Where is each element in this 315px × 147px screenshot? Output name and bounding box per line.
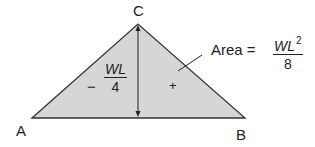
moment-diagram: [0, 0, 315, 147]
area-exponent: 2: [296, 35, 302, 46]
vertex-label-a: A: [16, 123, 26, 138]
area-numerator-text: WL: [274, 38, 295, 54]
area-fraction: WL2 8: [273, 36, 303, 71]
left-moment-fraction: WL 4: [104, 62, 127, 94]
vertex-label-b: B: [236, 127, 246, 142]
plus-sign: +: [169, 79, 177, 92]
left-moment-numerator: WL: [104, 62, 127, 78]
area-denominator: 8: [284, 55, 292, 71]
area-label-text: Area =: [211, 42, 256, 57]
minus-sign: −: [87, 79, 96, 94]
left-moment-denominator: 4: [112, 78, 120, 94]
area-numerator: WL2: [273, 36, 303, 55]
vertex-label-c: C: [133, 3, 144, 18]
